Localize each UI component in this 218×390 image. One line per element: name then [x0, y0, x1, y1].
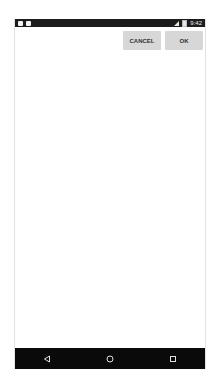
home-icon: [106, 355, 114, 363]
back-icon: [43, 355, 51, 363]
battery-icon: [182, 20, 187, 27]
status-bar: 9:42: [15, 19, 205, 27]
recents-icon: [169, 355, 177, 363]
cancel-button[interactable]: CANCEL: [123, 31, 161, 50]
status-time: 9:42: [190, 19, 202, 27]
home-button[interactable]: [100, 351, 120, 367]
status-bar-right: 9:42: [174, 19, 205, 27]
signal-icon: [174, 21, 179, 26]
phone-screen: 9:42 CANCEL OK: [14, 19, 206, 369]
back-button[interactable]: [37, 351, 57, 367]
navigation-bar: [15, 348, 205, 369]
notification-icon: [26, 21, 31, 26]
recents-button[interactable]: [163, 351, 183, 367]
notification-icon: [18, 21, 23, 26]
ok-button[interactable]: OK: [165, 31, 203, 50]
status-bar-left: [15, 21, 31, 26]
dialog-actions: CANCEL OK: [123, 31, 205, 50]
